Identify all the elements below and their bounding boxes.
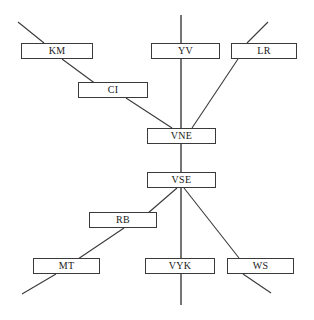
node-label-km: KM bbox=[49, 46, 66, 56]
node-ci[interactable]: CI bbox=[78, 82, 148, 98]
node-lr[interactable]: LR bbox=[231, 43, 297, 59]
node-vse[interactable]: VSE bbox=[147, 172, 216, 188]
node-label-ws: WS bbox=[253, 261, 269, 271]
node-label-ci: CI bbox=[108, 85, 119, 95]
node-vne[interactable]: VNE bbox=[147, 128, 216, 144]
node-yv[interactable]: YV bbox=[151, 43, 220, 59]
node-ws[interactable]: WS bbox=[227, 258, 294, 274]
edge-mt-stub bbox=[22, 274, 56, 294]
node-label-vse: VSE bbox=[172, 175, 192, 185]
edge-rb-mt bbox=[78, 228, 124, 259]
edge-km-stub bbox=[18, 22, 44, 43]
node-label-mt: MT bbox=[59, 261, 75, 271]
node-label-vyk: VYK bbox=[169, 261, 192, 271]
node-label-lr: LR bbox=[257, 46, 270, 56]
node-mt[interactable]: MT bbox=[33, 258, 100, 274]
node-label-yv: YV bbox=[178, 46, 193, 56]
diagram-canvas: KMCIYVLRVNEVSERBMTVYKWS bbox=[0, 0, 314, 320]
edge-lr-stub bbox=[247, 22, 268, 43]
edge-ci-vne bbox=[126, 98, 172, 128]
node-label-rb: RB bbox=[116, 215, 130, 225]
node-vyk[interactable]: VYK bbox=[145, 258, 215, 274]
node-rb[interactable]: RB bbox=[89, 212, 157, 228]
node-label-vne: VNE bbox=[171, 131, 192, 141]
edge-lr-vne bbox=[192, 59, 238, 128]
edge-ws-stub bbox=[243, 274, 271, 293]
node-km[interactable]: KM bbox=[21, 43, 93, 59]
edge-vse-ws bbox=[184, 188, 239, 258]
